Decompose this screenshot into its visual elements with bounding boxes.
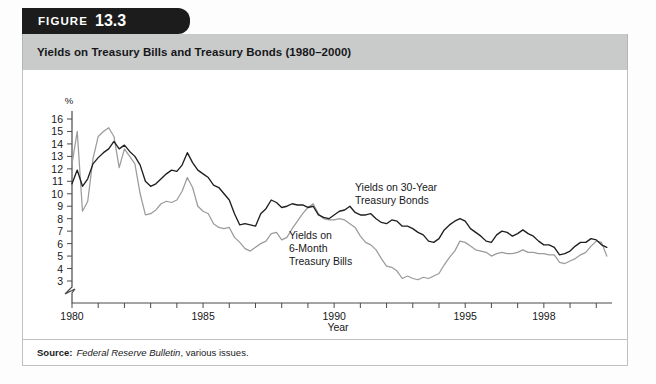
figure-page: FIGURE 13.3 Yields on Treasury Bills and… [0,0,656,384]
figure-title-band: Yields on Treasury Bills and Treasury Bo… [22,34,628,70]
source-publication: Federal Reserve Bulletin [76,347,180,358]
figure-label: FIGURE [38,15,88,27]
source-rest: , various issues. [180,347,248,358]
source-label: Source: [37,347,72,358]
figure-title: Yields on Treasury Bills and Treasury Bo… [37,46,351,58]
source-band: Source: Federal Reserve Bulletin , vario… [22,340,628,366]
figure-tab: FIGURE 13.3 [22,8,190,34]
figure-number: 13.3 [95,12,126,30]
plot-frame [22,70,628,340]
